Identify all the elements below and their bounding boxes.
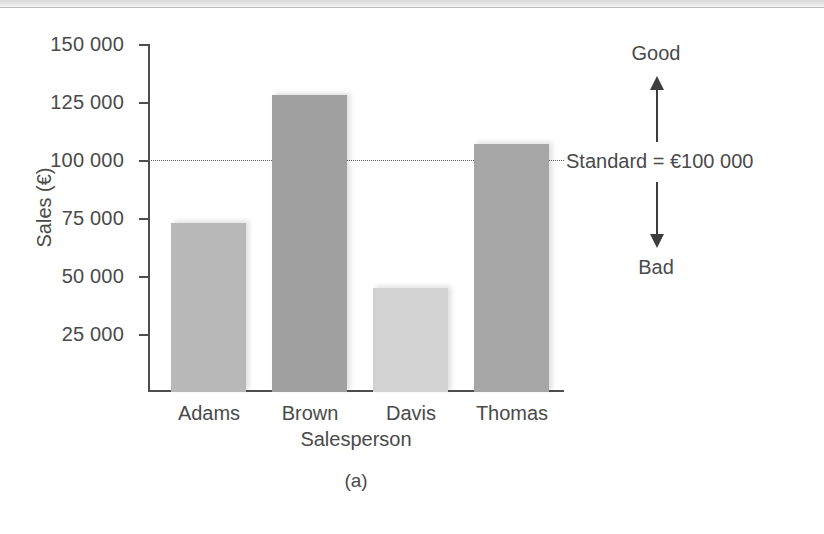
good-label: Good xyxy=(566,42,746,65)
y-tick-125000: 125 000 xyxy=(139,102,148,104)
figure-panel: Sales (€) 150 000 125 000 100 000 75 000… xyxy=(0,0,824,534)
bad-label: Bad xyxy=(566,256,746,279)
arrow-down-icon xyxy=(650,182,664,248)
plot-area: 150 000 125 000 100 000 75 000 50 000 25… xyxy=(148,44,564,392)
bar-davis[interactable]: Davis xyxy=(373,288,448,392)
y-tick-50000: 50 000 xyxy=(139,276,148,278)
y-tick-label-125000: 125 000 xyxy=(50,91,124,114)
arrow-up-shaft xyxy=(656,86,658,142)
bar-thomas[interactable]: Thomas xyxy=(474,144,549,392)
bar-brown[interactable]: Brown xyxy=(272,95,347,392)
scan-edge-line xyxy=(0,7,824,8)
bar-series: Adams Brown Davis Thomas xyxy=(148,44,564,392)
y-tick-100000: 100 000 xyxy=(139,160,148,162)
y-tick-label-50000: 50 000 xyxy=(62,265,124,288)
y-tick-label-150000: 150 000 xyxy=(50,33,124,56)
y-tick-25000: 25 000 xyxy=(139,334,148,336)
y-tick-label-100000: 100 000 xyxy=(50,149,124,172)
standard-value-label: Standard = €100 000 xyxy=(566,150,753,173)
bar-adams[interactable]: Adams xyxy=(171,223,246,392)
arrow-down-head xyxy=(650,234,664,248)
y-tick-150000: 150 000 xyxy=(139,44,148,46)
y-tick-label-75000: 75 000 xyxy=(62,207,124,230)
arrow-up-icon xyxy=(650,76,664,142)
x-tick-label-thomas: Thomas xyxy=(452,402,572,425)
standard-annotation: Good Standard = €100 000 Bad xyxy=(566,36,824,286)
arrow-down-shaft xyxy=(656,182,658,238)
figure-caption: (a) xyxy=(148,470,564,492)
y-tick-label-25000: 25 000 xyxy=(62,323,124,346)
x-axis-title: Salesperson xyxy=(148,428,564,451)
y-tick-75000: 75 000 xyxy=(139,218,148,220)
